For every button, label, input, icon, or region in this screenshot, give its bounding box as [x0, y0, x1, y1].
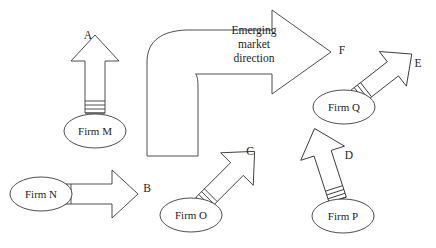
arrow-label-a: A [84, 29, 93, 41]
arrow-label-c: C [246, 145, 254, 157]
caption-line-3: direction [234, 52, 275, 64]
caption-line-2: market [238, 38, 271, 50]
firm-m-arrow-group [71, 35, 119, 113]
diagram-svg: Firm M A Firm N B Firm O C [0, 0, 436, 248]
firm-n-group: Firm N B [10, 170, 151, 218]
firm-p-arrow [293, 121, 360, 207]
diagram-canvas: Firm M A Firm N B Firm O C [0, 0, 436, 248]
firm-q-label: Firm Q [328, 101, 360, 113]
firm-n-label: Firm N [25, 188, 57, 200]
firm-o-label: Firm O [175, 209, 207, 221]
firm-q-group: Firm Q E [313, 37, 425, 124]
firm-p-label: Firm P [328, 210, 358, 222]
caption-line-1: Emerging [231, 24, 276, 37]
arrow-label-b: B [143, 182, 151, 194]
firm-p-arrow-group [293, 121, 360, 207]
arrow-label-d: D [345, 149, 353, 161]
arrow-label-e: E [414, 57, 421, 69]
arrow-label-f: F [339, 44, 345, 56]
firm-m-group: Firm M A [64, 29, 126, 148]
firm-p-group: Firm P D [293, 121, 374, 233]
firm-m-label: Firm M [78, 125, 112, 137]
